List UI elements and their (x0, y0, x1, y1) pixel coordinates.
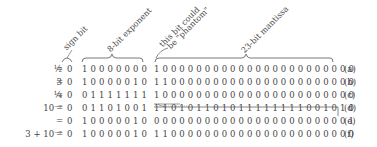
sign-brace (62, 58, 72, 62)
exponent-bits: 10000010 (82, 129, 150, 140)
sign-bit: 0 (67, 90, 72, 101)
mantissa-bits: 110000000000000000000000 (154, 129, 357, 140)
phantom-pointer (156, 48, 168, 58)
sign-bit: 0 (67, 77, 72, 88)
mantissa-brace (155, 54, 333, 62)
row-tag: (e) (344, 116, 356, 127)
sign-bit: 0 (67, 103, 72, 114)
mantissa-bits: 100000000000000000000000 (154, 64, 357, 75)
mantissa-bits: 110101101011111111001010 (154, 103, 357, 114)
exponent-brace (82, 54, 143, 62)
row-tag: (c) (344, 90, 355, 101)
equals: = (56, 90, 66, 101)
row-tag: (b) (344, 77, 356, 88)
mantissa-bits: 000000000000000000000001 (154, 116, 357, 127)
equals: = (56, 103, 66, 114)
row-tag: (d) (344, 103, 356, 114)
row-tag: (a) (344, 64, 356, 75)
mantissa-bits: 100000000000000000000000 (154, 90, 357, 101)
exponent-bits: 10000010 (82, 77, 150, 88)
sign-bit: 0 (67, 116, 72, 127)
sign-bit: 0 (67, 64, 72, 75)
equals: = (56, 77, 66, 88)
exponent-bits: 01101001 (82, 103, 150, 114)
row-tag: (f) (344, 129, 354, 140)
exponent-bits: 01111111 (82, 90, 150, 101)
equals: = (56, 64, 66, 75)
sign-bit: 0 (67, 129, 72, 140)
exponent-bits: 10000010 (82, 116, 150, 127)
equals: = (56, 116, 66, 127)
exponent-bits: 10000000 (82, 64, 150, 75)
mantissa-bits: 110000000000000000000000 (154, 77, 357, 88)
equals: = (56, 129, 66, 140)
